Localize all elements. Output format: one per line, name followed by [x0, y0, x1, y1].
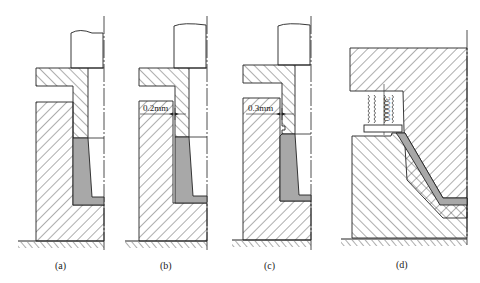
dimension-label-b: 0.2mm	[143, 103, 168, 113]
elastic-fill	[73, 138, 104, 205]
die-body	[36, 102, 104, 241]
die-body	[243, 98, 311, 240]
svg-text:300000: 300000	[382, 97, 391, 121]
die-body	[139, 101, 207, 241]
ground-hatch	[232, 241, 311, 247]
punch	[278, 24, 310, 65]
elastic-fill	[280, 134, 311, 201]
panel-d: 300000	[341, 30, 467, 246]
panel-label-a: (a)	[55, 260, 66, 271]
pressure-ring	[364, 125, 402, 132]
punch	[71, 31, 103, 69]
elastic-fill	[175, 137, 207, 203]
ground-hatch	[125, 242, 207, 248]
ground-hatch	[341, 240, 467, 246]
punch	[174, 24, 206, 68]
panel-label-d: (d)	[396, 259, 408, 270]
ground-hatch	[18, 242, 104, 248]
dimension-label-c: 0.3mm	[248, 103, 273, 113]
panel-c: 0.3mm	[232, 16, 311, 250]
panel-label-b: (b)	[160, 260, 172, 271]
panel-a	[18, 16, 104, 250]
technical-drawing: 0.2mm 0.3mm 300000	[0, 0, 480, 283]
panel-label-c: (c)	[264, 260, 275, 271]
